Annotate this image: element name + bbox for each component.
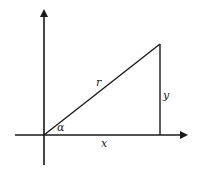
label-alpha: α	[57, 122, 64, 133]
diagram-canvas: r y x α	[0, 0, 202, 176]
label-r: r	[96, 77, 101, 88]
label-x: x	[101, 138, 107, 149]
label-y: y	[163, 90, 169, 101]
